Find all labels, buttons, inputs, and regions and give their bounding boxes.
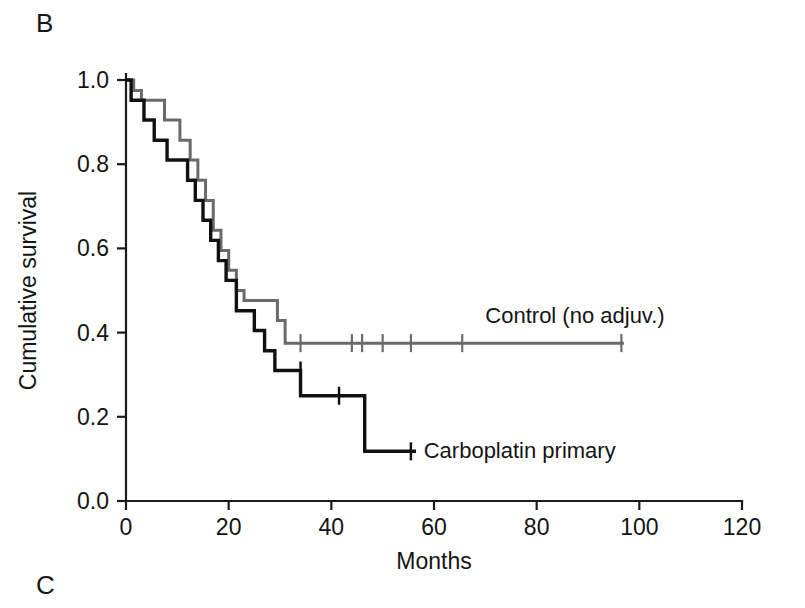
series-1: Carboplatin primary bbox=[126, 80, 616, 463]
x-axis-title: Months bbox=[396, 548, 471, 574]
series-line-1 bbox=[126, 80, 416, 451]
x-tick-label-2: 40 bbox=[319, 514, 345, 540]
series-0: Control (no adjuv.) bbox=[126, 80, 665, 352]
series-label-0: Control (no adjuv.) bbox=[485, 303, 664, 328]
y-axis-title: Cumulative survival bbox=[15, 191, 41, 390]
x-tick-label-5: 100 bbox=[620, 514, 658, 540]
x-tick-label-1: 20 bbox=[216, 514, 242, 540]
series-label-1: Carboplatin primary bbox=[424, 438, 616, 463]
y-tick-label-3: 0.6 bbox=[77, 235, 109, 261]
x-tick-label-0: 0 bbox=[120, 514, 133, 540]
y-tick-label-4: 0.8 bbox=[77, 151, 109, 177]
y-tick-label-0: 0.0 bbox=[77, 488, 109, 514]
x-tick-label-6: 120 bbox=[723, 514, 761, 540]
x-tick-label-3: 60 bbox=[421, 514, 447, 540]
survival-chart: 0.00.20.40.60.81.0020406080100120MonthsC… bbox=[0, 0, 805, 608]
figure-panel-b: B 0.00.20.40.60.81.0020406080100120Month… bbox=[0, 0, 805, 608]
y-tick-label-2: 0.4 bbox=[77, 320, 109, 346]
x-tick-label-4: 80 bbox=[524, 514, 550, 540]
y-tick-label-1: 0.2 bbox=[77, 404, 109, 430]
panel-label-c: C bbox=[36, 572, 55, 598]
y-tick-label-5: 1.0 bbox=[77, 67, 109, 93]
